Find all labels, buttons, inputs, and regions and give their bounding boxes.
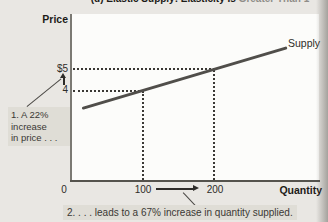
guide-dotted-quantity-200: [213, 70, 215, 180]
price-increase-arrow-icon: [63, 77, 65, 85]
quantity-increase-arrowhead-icon: [193, 185, 199, 191]
callout-price-line1: 1. A 22%: [11, 109, 67, 121]
x-tick-0: 0: [57, 184, 71, 195]
figure-title: (d) Elastic Supply: Elasticity Is Greate…: [72, 0, 328, 5]
callout-price-line2: increase: [11, 121, 67, 133]
page-edge-shadow: [316, 0, 328, 222]
x-tick-100: 100: [129, 184, 157, 195]
figure-title-highlight: Greater Than 1: [239, 0, 310, 4]
callout-quantity-increase: 2. . . . leads to a 67% increase in quan…: [63, 205, 297, 220]
callout-price-line3: in price . . .: [11, 132, 67, 144]
y-axis-title: Price: [28, 13, 68, 25]
y-axis: [70, 14, 72, 181]
guide-dotted-quantity-100: [142, 91, 144, 180]
quantity-increase-arrow-icon: [156, 188, 194, 190]
guide-dotted-price-5: [73, 68, 215, 70]
callout-price-increase: 1. A 22% increase in price . . .: [8, 107, 70, 146]
figure-title-main: (d) Elastic Supply: Elasticity Is: [91, 0, 239, 4]
x-tick-200: 200: [201, 184, 229, 195]
x-axis-title: Quantity: [274, 184, 322, 196]
price-increase-arrowhead-icon: [60, 73, 66, 78]
plot-area: [71, 14, 319, 180]
x-axis: [70, 180, 320, 182]
figure-elastic-supply: (d) Elastic Supply: Elasticity Is Greate…: [0, 0, 328, 222]
